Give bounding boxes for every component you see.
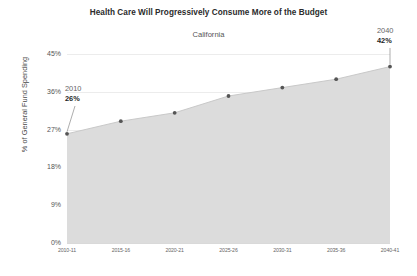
x-tick-label: 2030-31 (252, 247, 312, 253)
y-tick-label: 9% (21, 201, 61, 208)
annotation-2010-value: 26% (65, 94, 81, 104)
x-tick-label: 2020-21 (145, 247, 205, 253)
y-tick-label: 27% (21, 126, 61, 133)
x-axis-line (67, 243, 390, 244)
x-tick-label: 2035-36 (306, 247, 366, 253)
area-series (67, 54, 390, 243)
data-point-marker (334, 77, 338, 81)
data-point-marker (388, 65, 392, 69)
plot-area (67, 54, 390, 243)
data-point-marker (280, 86, 284, 90)
data-point-marker (173, 111, 177, 115)
data-point-marker (119, 119, 123, 123)
annotation-2040: 2040 42% (377, 26, 393, 46)
y-tick-label: 45% (21, 50, 61, 57)
y-tick-label: 0% (21, 239, 61, 246)
x-tick-label: 2010-11 (37, 247, 97, 253)
y-tick-label: 18% (21, 163, 61, 170)
annotation-2010-year: 2010 (65, 84, 81, 94)
y-tick-label: 36% (21, 88, 61, 95)
data-point-marker (227, 94, 231, 98)
x-tick-label: 2015-16 (91, 247, 151, 253)
chart-subtitle: California (0, 30, 417, 39)
x-tick-label: 2040-41 (360, 247, 417, 253)
annotation-2040-year: 2040 (377, 26, 393, 36)
chart-container: Health Care Will Progressively Consume M… (0, 0, 417, 276)
chart-title: Health Care Will Progressively Consume M… (0, 8, 417, 17)
data-point-marker (65, 132, 69, 136)
area-fill (67, 67, 390, 243)
x-tick-label: 2025-26 (199, 247, 259, 253)
annotation-2040-value: 42% (377, 36, 393, 46)
annotation-2010: 2010 26% (65, 84, 81, 104)
